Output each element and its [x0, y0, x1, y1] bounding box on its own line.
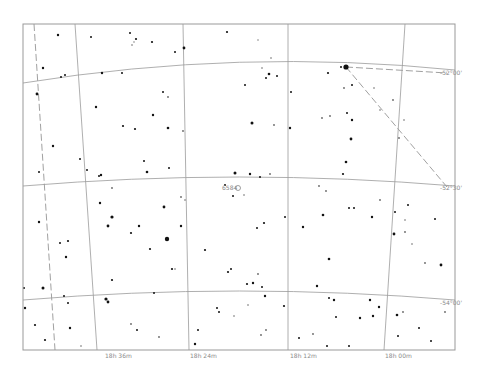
star — [60, 76, 62, 78]
star — [65, 256, 67, 258]
star — [138, 225, 140, 227]
star — [346, 112, 348, 114]
star — [38, 171, 40, 173]
star — [407, 204, 409, 206]
star — [246, 283, 248, 285]
star — [348, 207, 350, 209]
star — [131, 44, 133, 46]
star — [430, 340, 432, 342]
star — [130, 323, 132, 325]
star — [440, 264, 443, 267]
star — [67, 302, 69, 304]
star — [321, 117, 323, 119]
star — [328, 297, 330, 299]
star — [265, 329, 267, 331]
ra-label: 18h 00m — [385, 352, 412, 359]
star — [260, 334, 262, 336]
star — [340, 66, 342, 68]
star — [353, 207, 355, 209]
star — [397, 335, 399, 337]
star — [133, 41, 134, 42]
star — [256, 227, 258, 229]
star — [44, 339, 46, 341]
star — [197, 329, 199, 331]
star — [34, 324, 36, 326]
star — [273, 124, 275, 126]
star — [36, 93, 39, 96]
star — [444, 311, 446, 313]
star — [218, 311, 220, 313]
star — [227, 271, 229, 273]
star — [122, 125, 124, 127]
star — [270, 57, 272, 59]
star — [95, 106, 97, 108]
star — [350, 138, 353, 141]
star — [99, 202, 101, 204]
star — [402, 311, 404, 313]
dec-label: -54°00' — [440, 299, 462, 306]
star — [129, 32, 131, 34]
star — [42, 67, 44, 69]
star — [59, 242, 61, 244]
dec-label: -52°30' — [440, 184, 462, 191]
star — [333, 299, 335, 301]
star — [290, 91, 292, 93]
star — [204, 249, 206, 251]
star — [404, 231, 406, 233]
star — [42, 287, 45, 290]
star — [63, 295, 65, 297]
star — [165, 237, 169, 241]
star — [326, 345, 328, 347]
star — [343, 64, 348, 69]
star — [230, 268, 232, 270]
star — [373, 87, 375, 89]
star — [424, 262, 426, 264]
star — [351, 84, 353, 86]
star — [316, 285, 318, 287]
star — [289, 127, 291, 129]
star — [168, 167, 170, 169]
star — [411, 243, 413, 245]
star — [348, 345, 350, 347]
star — [149, 248, 151, 250]
star — [261, 286, 263, 288]
star — [298, 337, 300, 339]
star — [86, 169, 88, 171]
star — [67, 240, 69, 242]
star — [398, 137, 400, 139]
star — [107, 301, 110, 304]
star — [318, 185, 320, 187]
star — [136, 329, 138, 331]
star — [90, 36, 92, 38]
star — [335, 316, 337, 318]
star — [57, 34, 59, 36]
star — [269, 173, 271, 175]
star — [312, 333, 314, 335]
star — [379, 199, 381, 201]
star — [404, 219, 406, 221]
star — [244, 84, 246, 86]
star — [372, 315, 374, 317]
star — [111, 187, 113, 189]
star — [180, 225, 182, 227]
star — [396, 314, 399, 317]
star — [134, 128, 136, 130]
star — [418, 327, 420, 329]
star — [110, 215, 113, 218]
ra-label: 18h 36m — [105, 352, 132, 359]
star — [259, 176, 261, 178]
star — [342, 173, 344, 175]
star — [345, 161, 348, 164]
star — [284, 216, 286, 218]
star — [378, 306, 380, 308]
star — [184, 199, 186, 201]
star — [234, 172, 237, 175]
star — [64, 74, 66, 76]
object-label: 6584 — [222, 184, 237, 191]
star — [80, 345, 82, 347]
star — [121, 72, 123, 74]
star — [369, 299, 371, 301]
star — [257, 39, 258, 40]
star — [252, 282, 254, 284]
star — [143, 160, 145, 162]
